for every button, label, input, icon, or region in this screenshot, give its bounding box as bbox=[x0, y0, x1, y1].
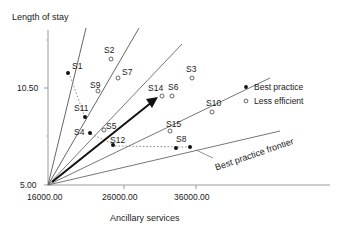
x-tick-label-16000: 16000.00 bbox=[27, 193, 62, 202]
point-label-s5: S5 bbox=[106, 122, 116, 131]
legend-label-less-efficient: Less efficient bbox=[254, 97, 303, 106]
point-s2[interactable] bbox=[109, 57, 113, 61]
y-tick-label-10-50: 10.50 bbox=[17, 84, 38, 93]
point-label-s15: S15 bbox=[166, 120, 181, 129]
point-label-s14: S14 bbox=[148, 84, 163, 93]
point-label-s11: S11 bbox=[74, 104, 89, 113]
legend-marker-best-practice bbox=[244, 85, 248, 89]
point-label-s1: S1 bbox=[72, 62, 82, 71]
point-s11[interactable] bbox=[83, 115, 87, 119]
x-axis-title: Ancillary services bbox=[110, 214, 180, 223]
legend-marker-less-efficient bbox=[244, 99, 248, 103]
point-s10[interactable] bbox=[210, 110, 214, 114]
point-label-s2: S2 bbox=[104, 46, 114, 55]
point-label-s10: S10 bbox=[206, 99, 221, 108]
point-s3[interactable] bbox=[190, 76, 194, 80]
point-s7[interactable] bbox=[116, 76, 120, 80]
point-s6[interactable] bbox=[170, 94, 174, 98]
point-s4[interactable] bbox=[88, 131, 92, 135]
point-s8[interactable] bbox=[188, 145, 192, 149]
frontier-ray-s4 bbox=[48, 44, 182, 185]
point-label-s9: S9 bbox=[90, 81, 100, 90]
point-s14[interactable] bbox=[160, 94, 164, 98]
point-label-s12: S12 bbox=[110, 136, 125, 145]
frontier-label-leader bbox=[196, 150, 213, 158]
point-s15[interactable] bbox=[168, 129, 172, 133]
frontier-ray-s11 bbox=[48, 28, 139, 185]
point-s15-projection[interactable] bbox=[174, 146, 178, 150]
x-tick-label-26000: 26000.00 bbox=[102, 193, 137, 202]
x-tick-label-36000: 36000.00 bbox=[174, 193, 209, 202]
y-tick-label-5-00: 5.00 bbox=[20, 181, 37, 190]
legend-label-best-practice: Best practice bbox=[254, 83, 303, 92]
point-label-s4: S4 bbox=[74, 128, 84, 137]
point-label-s3: S3 bbox=[186, 65, 196, 74]
y-axis-title: Length of stay bbox=[12, 13, 69, 22]
point-s1[interactable] bbox=[66, 71, 70, 75]
point-label-s8: S8 bbox=[176, 135, 186, 144]
point-label-s6: S6 bbox=[168, 83, 178, 92]
chart-canvas: Length of stay Ancillary services 10.50 … bbox=[0, 0, 348, 236]
point-label-s7: S7 bbox=[122, 68, 132, 77]
